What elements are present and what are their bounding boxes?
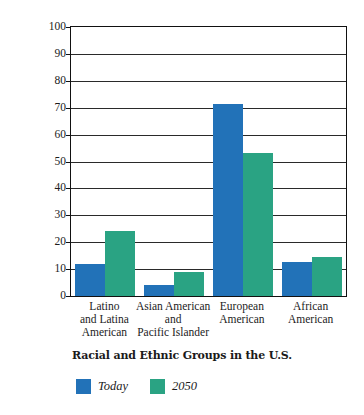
legend-swatch-icon [150,379,165,394]
y-axis-tick-label: 70 [34,102,66,114]
x-axis-tick-label-3: AfricanAmerican [269,300,352,326]
y-axis-tick-label: 90 [34,48,66,60]
y-axis-tick-label: 80 [34,75,66,87]
bar-2050-2 [243,153,273,296]
bars-group [71,27,346,296]
bar-2050-3 [312,257,342,296]
legend-label: 2050 [172,379,197,394]
y-axis-tick-label: 40 [34,182,66,194]
y-axis-tickmark [66,296,71,297]
legend-label: Today [98,379,128,394]
y-axis-tick-label: 100 [34,21,66,33]
y-axis-tick-labels: 1009080706050403020100 [34,20,66,303]
bar-2050-0 [105,231,135,296]
chart-legend: Today2050 [76,377,219,395]
y-axis-tick-label: 10 [34,263,66,275]
y-axis-tick-label: 30 [34,209,66,221]
y-axis-tick-label: 60 [34,129,66,141]
legend-item-2050: 2050 [150,379,197,394]
plot-frame-right [346,26,347,297]
plot-area [70,27,346,297]
bar-2050-1 [174,272,204,296]
x-axis-tick-labels: Latinoand LatinaAmericanAsian Americanan… [62,300,354,346]
bar-today-0 [75,264,105,296]
legend-swatch-icon [76,379,91,394]
bar-today-1 [144,285,174,296]
bar-chart-figure: Population (Percent) 1009080706050403020… [0,0,364,415]
y-axis-tick-label: 50 [34,156,66,168]
bar-today-2 [213,104,243,296]
bar-today-3 [282,262,312,296]
legend-item-today: Today [76,379,128,394]
x-axis-title: Racial and Ethnic Groups in the U.S. [0,349,364,362]
y-axis-tick-label: 20 [34,236,66,248]
